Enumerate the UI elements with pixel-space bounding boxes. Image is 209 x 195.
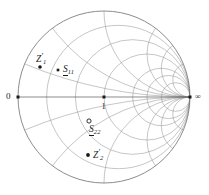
- s11-subscript: 11: [68, 68, 74, 75]
- smith-chart-figure: 0 1 ∞ Z′1 S11 S22 Z′2: [0, 0, 209, 195]
- z1-prime-marker: [38, 65, 42, 69]
- smith-chart-canvas: [0, 0, 209, 195]
- s22-subscript: 22: [94, 128, 101, 135]
- center-marker: [103, 96, 106, 99]
- z2-prime-marker: [86, 153, 90, 157]
- point-label-z1-prime: Z′1: [36, 53, 47, 65]
- reactance-arc--0.5: [18, 97, 209, 195]
- s22-marker: [87, 119, 91, 123]
- reactance-arc-0.2: [0, 0, 209, 97]
- z2-subscript: 2: [100, 154, 103, 161]
- reactance-arc-1: [104, 0, 209, 97]
- point-label-s22: S22: [89, 125, 101, 136]
- infinity-marker: [189, 96, 192, 99]
- z1-subscript: 1: [43, 58, 46, 65]
- reactance-arc-2: [147, 11, 209, 97]
- point-label-z2-prime: Z′2: [93, 149, 104, 161]
- s11-marker: [57, 69, 60, 72]
- reactance-arc-0.5: [18, 0, 209, 97]
- axis-label-infinity: ∞: [195, 93, 201, 101]
- reactance-arc--1: [104, 97, 209, 195]
- axis-label-zero: 0: [6, 92, 11, 101]
- origin-marker: [17, 96, 20, 99]
- axis-label-center: 1: [102, 102, 106, 111]
- point-label-s11: S11: [63, 65, 74, 76]
- reactance-arc--2: [147, 97, 209, 183]
- reactance-arc--0.2: [0, 97, 209, 195]
